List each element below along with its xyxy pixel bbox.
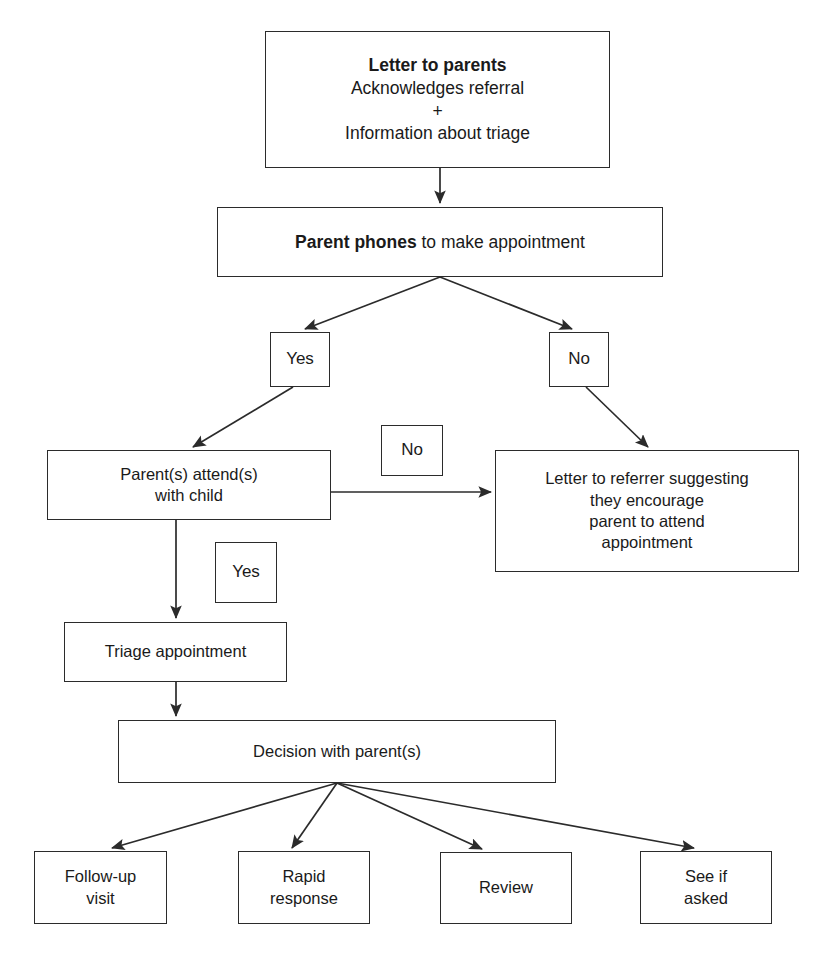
edge-decision-to-see-if-asked bbox=[337, 783, 694, 848]
parent-phones-rest: to make appointment bbox=[417, 232, 585, 252]
node-yes-attend[interactable]: Yes bbox=[215, 542, 277, 603]
node-decision-with-parents[interactable]: Decision with parent(s) bbox=[118, 720, 556, 783]
no-attend-label: No bbox=[401, 439, 423, 461]
edge-no-to-letter-referrer bbox=[586, 387, 648, 447]
node-no-phone[interactable]: No bbox=[549, 332, 609, 387]
edge-phones-to-no bbox=[440, 277, 572, 329]
node-yes-phone[interactable]: Yes bbox=[270, 332, 330, 387]
node-parents-attend[interactable]: Parent(s) attend(s) with child bbox=[47, 450, 331, 520]
edge-decision-to-follow-up bbox=[112, 783, 337, 848]
flowchart-canvas: Letter to parents Acknowledges referral … bbox=[0, 0, 832, 962]
parents-attend-line-1: Parent(s) attend(s) bbox=[120, 464, 258, 485]
parents-attend-line-2: with child bbox=[155, 485, 223, 506]
letter-to-referrer-line-2: they encourage bbox=[590, 490, 704, 511]
edge-decision-to-rapid-response bbox=[292, 783, 337, 848]
parent-phones-bold: Parent phones bbox=[295, 232, 417, 252]
node-letter-to-referrer[interactable]: Letter to referrer suggesting they encou… bbox=[495, 450, 799, 572]
decision-with-parents-label: Decision with parent(s) bbox=[253, 741, 421, 762]
node-letter-to-parents[interactable]: Letter to parents Acknowledges referral … bbox=[265, 31, 610, 168]
see-if-asked-line-1: See if bbox=[685, 866, 727, 887]
node-no-attend[interactable]: No bbox=[381, 425, 443, 476]
node-rapid-response[interactable]: Rapid response bbox=[238, 851, 370, 924]
parent-phones-label: Parent phones to make appointment bbox=[295, 231, 585, 254]
triage-appointment-label: Triage appointment bbox=[105, 641, 247, 662]
letter-to-parents-line-3: + bbox=[432, 100, 442, 123]
node-review[interactable]: Review bbox=[440, 852, 572, 924]
letter-to-parents-line-2: Acknowledges referral bbox=[351, 77, 524, 100]
node-triage-appointment[interactable]: Triage appointment bbox=[64, 622, 287, 682]
node-parent-phones[interactable]: Parent phones to make appointment bbox=[217, 207, 663, 277]
no-phone-label: No bbox=[568, 348, 590, 370]
see-if-asked-line-2: asked bbox=[684, 888, 728, 909]
letter-to-referrer-line-3: parent to attend bbox=[589, 511, 705, 532]
follow-up-visit-line-2: visit bbox=[86, 888, 114, 909]
letter-to-parents-line-4: Information about triage bbox=[345, 122, 530, 145]
letter-to-referrer-line-4: appointment bbox=[602, 532, 693, 553]
edge-phones-to-yes bbox=[305, 277, 440, 329]
follow-up-visit-line-1: Follow-up bbox=[65, 866, 137, 887]
yes-attend-label: Yes bbox=[232, 561, 260, 583]
edge-yes-to-parents-attend bbox=[193, 387, 293, 447]
letter-to-parents-line-1: Letter to parents bbox=[368, 54, 506, 77]
rapid-response-line-1: Rapid bbox=[282, 866, 325, 887]
yes-phone-label: Yes bbox=[286, 348, 314, 370]
rapid-response-line-2: response bbox=[270, 888, 338, 909]
node-see-if-asked[interactable]: See if asked bbox=[640, 851, 772, 924]
edge-decision-to-review bbox=[337, 783, 482, 849]
node-follow-up-visit[interactable]: Follow-up visit bbox=[34, 851, 167, 924]
review-label: Review bbox=[479, 877, 533, 898]
letter-to-referrer-line-1: Letter to referrer suggesting bbox=[545, 468, 749, 489]
